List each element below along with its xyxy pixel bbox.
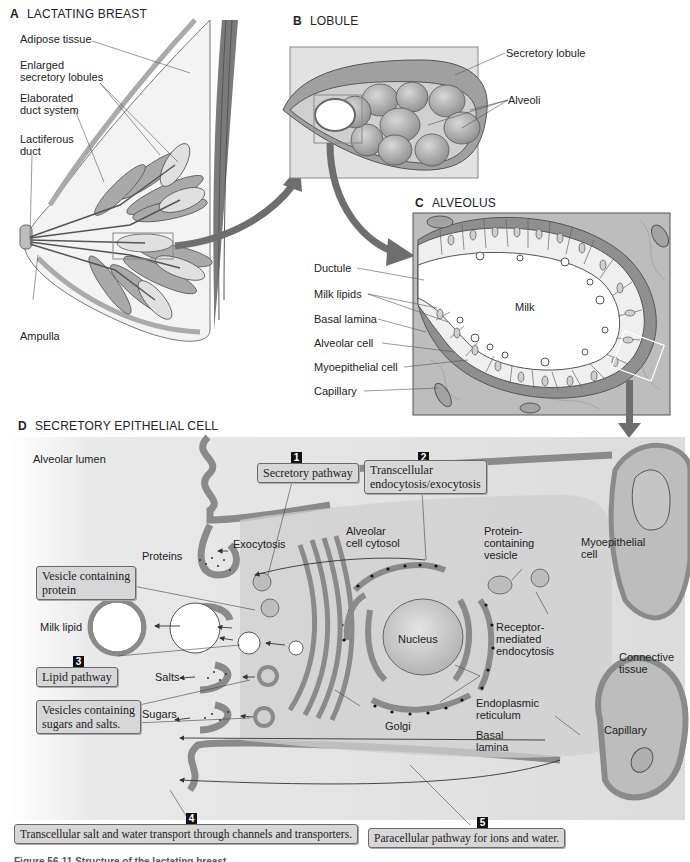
label-protein-vesicle-3: vesicle bbox=[484, 549, 518, 562]
pathway-number-5: 5 bbox=[477, 817, 488, 828]
label-secretory-lobules: secretory lobules bbox=[20, 71, 103, 84]
callout-transcellular-salt-water: Transcellular salt and water transport t… bbox=[14, 824, 358, 844]
label-alveoli: Alveoli bbox=[508, 94, 540, 107]
label-milk: Milk bbox=[515, 301, 535, 314]
label-secretory-lobule: Secretory lobule bbox=[506, 47, 586, 60]
panel-d-letter: D bbox=[18, 419, 27, 433]
figure-caption: Figure 56-11 Structure of the lactating … bbox=[14, 855, 229, 862]
panel-b-letter: B bbox=[293, 14, 302, 28]
callout-lipid-pathway: Lipid pathway bbox=[36, 667, 118, 687]
panel-c-title-text: ALVEOLUS bbox=[432, 196, 496, 210]
label-ductule: Ductule bbox=[314, 262, 351, 275]
callout-vesicle-protein-line-2: protein bbox=[42, 583, 130, 597]
label-proteins: Proteins bbox=[142, 550, 182, 563]
panel-d-title-text: SECRETORY EPITHELIAL CELL bbox=[35, 419, 218, 433]
label-exocytosis: Exocytosis bbox=[233, 538, 286, 551]
label-basal-lamina: Basal lamina bbox=[314, 313, 377, 326]
label-myoepithelial-2: cell bbox=[581, 548, 598, 561]
label-alveolar-cell: Alveolar cell bbox=[314, 337, 373, 350]
label-connective-2: tissue bbox=[619, 663, 648, 676]
label-sugars: Sugars bbox=[142, 708, 177, 721]
panel-a-title-text: LACTATING BREAST bbox=[27, 7, 147, 21]
panel-a-letter: A bbox=[10, 7, 19, 21]
alveolus-drawing bbox=[357, 213, 672, 438]
label-adipose-tissue: Adipose tissue bbox=[20, 33, 92, 46]
label-capillary: Capillary bbox=[314, 385, 357, 398]
label-golgi: Golgi bbox=[385, 720, 411, 733]
callout-vesicle-containing-protein: Vesicle containing protein bbox=[36, 566, 136, 600]
epithelial-cell-drawing bbox=[10, 437, 690, 825]
label-duct-system: duct system bbox=[20, 104, 79, 117]
callout-vesicles-sugars-salts: Vesicles containing sugars and salts. bbox=[36, 700, 141, 734]
label-capillary-d: Capillary bbox=[604, 724, 647, 737]
label-cytosol-2: cell cytosol bbox=[346, 537, 400, 550]
pathway-number-1: 1 bbox=[291, 452, 302, 463]
pathway-number-3: 3 bbox=[73, 656, 84, 667]
callout-vesicle-protein-line-1: Vesicle containing bbox=[42, 569, 130, 583]
label-milk-lipids: Milk lipids bbox=[314, 288, 362, 301]
pathway-number-4: 4 bbox=[186, 813, 197, 824]
panel-c-letter: C bbox=[415, 196, 424, 210]
label-alveolar-lumen: Alveolar lumen bbox=[33, 453, 106, 466]
panel-d-title: DSECRETORY EPITHELIAL CELL bbox=[18, 419, 218, 433]
label-receptor-3: endocytosis bbox=[496, 645, 554, 658]
label-basal-lamina-d-2: lamina bbox=[476, 741, 508, 754]
label-nucleus: Nucleus bbox=[398, 633, 438, 646]
callout-transcellular-line-2: endocytosis/exocytosis bbox=[370, 477, 481, 491]
panel-a-title: ALACTATING BREAST bbox=[10, 7, 147, 21]
panel-c-title: CALVEOLUS bbox=[415, 196, 496, 210]
label-myoepithelial-cell: Myoepithelial cell bbox=[314, 361, 398, 374]
label-lactiferous-duct: duct bbox=[20, 145, 41, 158]
callout-vesicles-sugars-line-1: Vesicles containing bbox=[42, 703, 135, 717]
callout-secretory-pathway: Secretory pathway bbox=[257, 463, 359, 483]
callout-transcellular-line-1: Transcellular bbox=[370, 463, 481, 477]
label-milk-lipid: Milk lipid bbox=[40, 621, 82, 634]
panel-b-title-text: LOBULE bbox=[310, 14, 359, 28]
callout-transcellular-endo-exo: Transcellular endocytosis/exocytosis bbox=[364, 460, 487, 494]
label-er-2: reticulum bbox=[476, 709, 521, 722]
callout-paracellular-pathway: Paracellular pathway for ions and water. bbox=[368, 828, 565, 848]
label-salts: Salts bbox=[155, 671, 179, 684]
callout-vesicles-sugars-line-2: sugars and salts. bbox=[42, 717, 135, 731]
panel-b-title: BLOBULE bbox=[293, 14, 358, 28]
label-ampulla: Ampulla bbox=[20, 330, 60, 343]
